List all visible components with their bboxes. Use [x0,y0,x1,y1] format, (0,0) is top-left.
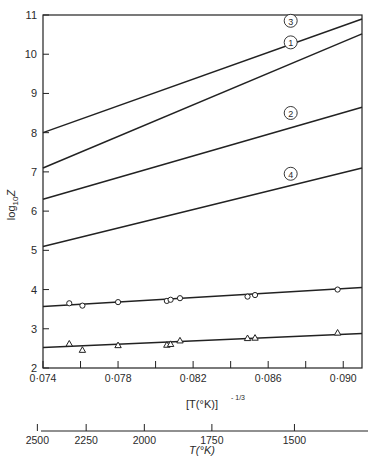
data-point-circle [67,301,72,306]
secondary-tick-label: 2250 [74,434,98,446]
curve-label: 3 [288,17,293,27]
y-axis-label: log10Z [5,189,20,221]
y-tick-label: 4 [31,284,37,296]
y-tick-label: 11 [26,9,37,21]
secondary-x-axis: 25002250200017501500 [26,424,368,446]
secondary-tick-label: 1500 [283,434,307,446]
curve-label: 2 [288,109,293,119]
data-point-triangle [79,347,85,353]
x-axis-ticks: 0·0740·0780·0820·0860·090 [30,361,357,384]
line-3 [43,19,362,133]
y-tick-label: 10 [25,48,37,60]
data-point-triangle [66,340,72,346]
x-tick-label: 0·078 [105,372,132,384]
data-point-circle [252,292,257,297]
secondary-tick-label: 2500 [26,434,50,446]
x-tick-label: 0·090 [330,372,357,384]
y-axis-ticks: 234567891011 [25,9,49,374]
x-axis-label-exponent: - 1/3 [231,394,245,401]
fit-line-triangles [43,333,362,347]
fit-line-circles [43,288,362,307]
x-tick-label: 0·082 [180,372,207,384]
data-point-circle [115,300,120,305]
x-axis-label-main: [T(°K)] [186,398,218,410]
y-tick-label: 5 [31,244,37,256]
data-point-circle [177,296,182,301]
y-tick-label: 6 [31,205,37,217]
x-axis-label: [T(°K)] - 1/3 [186,394,245,410]
curve-label: 4 [288,170,293,180]
y-tick-label: 3 [31,323,37,335]
plot-border [43,15,362,368]
curve-label: 1 [288,38,293,48]
line-4 [43,168,362,246]
line-1 [43,34,362,168]
y-tick-label: 7 [31,166,37,178]
chart: 234567891011 0·0740·0780·0820·0860·090 3… [0,0,383,467]
svg-text:log10Z: log10Z [5,189,20,221]
data-point-triangle [334,330,340,336]
x-tick-label: 0·086 [255,372,282,384]
series-labels: 3124 [284,14,297,180]
data-point-circle [168,297,173,302]
data-point-circle [80,303,85,308]
data-series [43,19,362,352]
data-point-circle [335,287,340,292]
data-point-circle [245,294,250,299]
line-2 [43,107,362,199]
plot-frame [43,15,362,368]
y-tick-label: 8 [31,127,37,139]
secondary-axis-label: T(°K) [189,444,215,456]
data-point-triangle [177,337,183,343]
y-tick-label: 9 [31,87,37,99]
secondary-tick-label: 2000 [133,434,157,446]
x-tick-label: 0·074 [30,372,57,384]
